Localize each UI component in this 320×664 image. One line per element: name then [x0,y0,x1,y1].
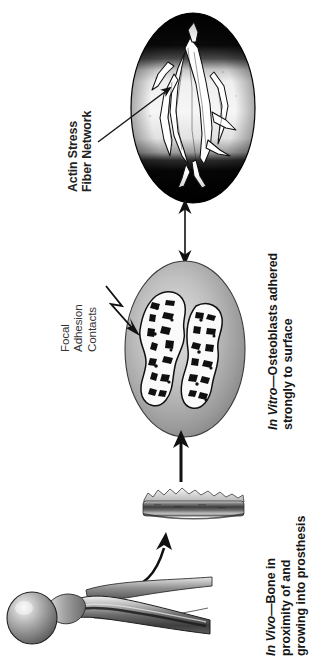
focal-label-line-2: Adhesion [71,304,84,352]
caption-in-vitro-emphasis: In Vitro [266,388,280,430]
arrow-slab-to-oval [168,428,198,484]
caption-in-vivo: In Vivo—Bone in proximity of and growing… [264,516,309,656]
actin-label-line-2: Fiber Network [80,111,94,192]
caption-in-vivo-line-2: proximity of and [279,516,294,656]
actin-label-line-1: Actin Stress [66,111,80,192]
caption-in-vivo-line-3: growing into prosthesis [294,516,309,656]
actin-leader-arrow [96,76,182,146]
caption-in-vivo-emphasis: In Vivo [264,616,278,656]
caption-in-vitro-line-1: In Vitro—Osteoblasts adhered [266,253,281,430]
caption-in-vitro: In Vitro—Osteoblasts adhered strongly to… [266,253,296,430]
femoral-prosthesis [2,556,214,660]
focal-label-line-1: Focal [58,304,71,352]
caption-in-vivo-rest: —Bone in [264,558,278,616]
focal-adhesion-label: Focal Adhesion Contacts [58,304,98,352]
implant-substrate [140,482,248,526]
caption-in-vivo-line-1: In Vivo—Bone in [264,516,279,656]
arrow-oval-to-oval [168,198,202,266]
caption-in-vitro-rest: —Osteoblasts adhered [266,253,280,388]
focal-label-line-3: Contacts [85,304,98,352]
actin-stress-label: Actin Stress Fiber Network [66,111,95,192]
focal-adhesion-leader-arrow [100,284,160,342]
figure-root: Actin Stress Fiber Network [0,0,320,664]
caption-in-vitro-line-2: strongly to surface [281,253,296,430]
